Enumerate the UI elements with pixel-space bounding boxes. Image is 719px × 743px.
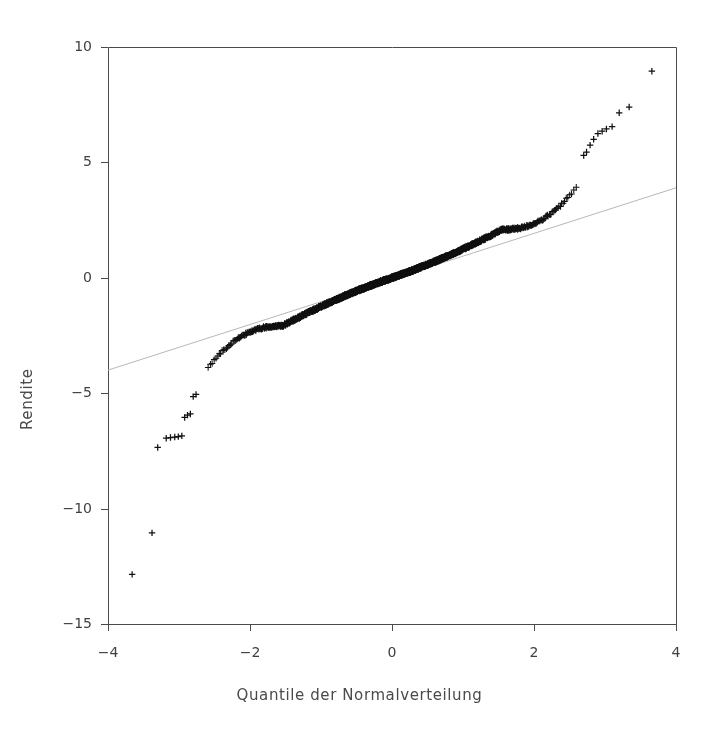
x-tick-label: 0	[362, 644, 422, 660]
y-tick-label: −15	[30, 615, 92, 631]
x-tick-label: 4	[646, 644, 706, 660]
y-tick-label: −5	[30, 384, 92, 400]
x-axis-title: Quantile der Normalverteilung	[0, 686, 719, 704]
x-tick-label: 2	[504, 644, 564, 660]
x-tick-label: −2	[220, 644, 280, 660]
y-tick-label: 5	[30, 153, 92, 169]
x-tick-label: −4	[78, 644, 138, 660]
y-tick-label: 10	[30, 38, 92, 54]
y-tick-label: 0	[30, 269, 92, 285]
y-tick-label: −10	[30, 500, 92, 516]
qq-plot-canvas	[0, 0, 719, 743]
y-axis-title: Rendite	[18, 0, 36, 430]
qq-plot-figure: Quantile der Normalverteilung Rendite −4…	[0, 0, 719, 743]
